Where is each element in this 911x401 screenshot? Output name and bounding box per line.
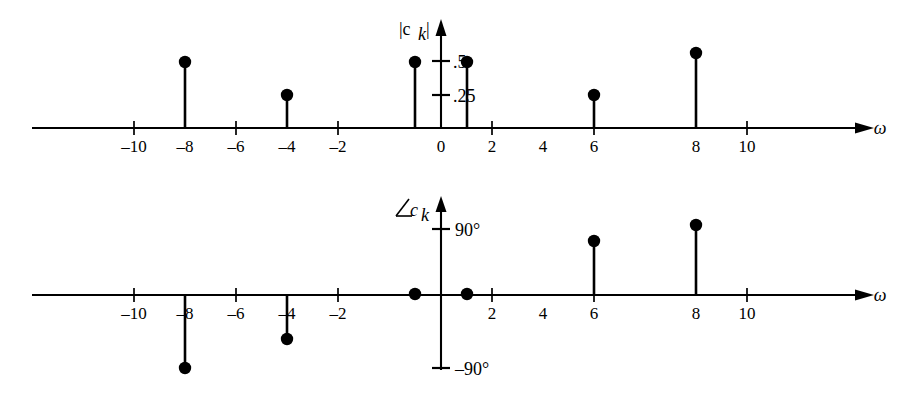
phase-xtick-label-4: 4 [539,304,548,323]
magnitude-xtick-label--2: –2 [329,137,347,156]
magnitude-ytick-label-quarter: .25 [453,86,476,106]
magnitude-y-axis-label: |c k | [399,19,430,44]
magnitude-y-axis-arrow [436,19,447,36]
magnitude-y-axis-label-open: |c [399,19,411,39]
phase-xtick-label-2: 2 [488,304,497,323]
magnitude-xtick-label-10: 10 [739,137,756,156]
phase-y-axis-arrow [436,196,447,212]
phase-xtick-label-10: 10 [739,304,756,323]
magnitude-xtick-label--8: –8 [176,137,194,156]
phase-xtick-label--2: –2 [329,304,347,323]
phase-xtick-label--6: –6 [227,304,245,323]
phase-y-axis-label-subscript: k [421,205,430,225]
magnitude-xtick-label-2: 2 [488,137,497,156]
phase-point-1 [461,288,473,300]
phase-y-axis-label: c k [396,199,430,225]
magnitude-point-4 [588,89,600,101]
phase-point--1 [409,288,421,300]
magnitude-spectrum-plot: –10 –8 –6 –4 –2 0 2 4 6 8 10 .5 .25 |c k… [32,19,886,156]
magnitude-xtick-label-0: 0 [437,137,446,156]
phase-xtick-label-6: 6 [590,304,599,323]
phase-x-axis-arrow [855,290,874,301]
phase-y-axis-label-c: c [410,200,418,220]
phase-point--4 [281,333,293,345]
magnitude-xtick-label--4: –4 [278,137,297,156]
fourier-spectrum-figure: –10 –8 –6 –4 –2 0 2 4 6 8 10 .5 .25 |c k… [0,0,911,401]
magnitude-x-axis-arrow [855,123,874,134]
magnitude-point--8 [179,56,191,68]
magnitude-xtick-label-6: 6 [590,137,599,156]
magnitude-point--1 [409,56,421,68]
phase-ytick-label-plus-90: 90° [455,220,480,240]
angle-icon [396,199,409,216]
phase-point-4 [588,235,600,247]
magnitude-xtick-label-4: 4 [539,137,548,156]
phase-ytick-label-minus-90: –90° [454,359,489,379]
spectrum-plots-svg: –10 –8 –6 –4 –2 0 2 4 6 8 10 .5 .25 |c k… [0,0,911,401]
magnitude-point-8 [690,47,702,59]
phase-xtick-label-8: 8 [692,304,701,323]
phase-point--8 [179,362,191,374]
magnitude-point--4 [281,89,293,101]
phase-xtick-label--10: –10 [120,304,147,323]
magnitude-xtick-label--10: –10 [120,137,147,156]
phase-x-axis-label-omega: ω [874,285,887,305]
magnitude-point-1 [461,56,473,68]
phase-spectrum-plot: –10 –8 –6 –4 –2 2 4 6 8 10 90° –90° c k … [32,196,886,379]
magnitude-xtick-label-8: 8 [692,137,701,156]
phase-point-8 [690,219,702,231]
magnitude-xtick-label--6: –6 [227,137,245,156]
magnitude-x-axis-label-omega: ω [874,118,887,138]
magnitude-y-axis-label-close: | [426,19,430,39]
